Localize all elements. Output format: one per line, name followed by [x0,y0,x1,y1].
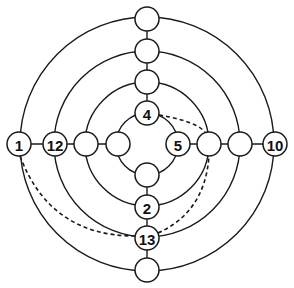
circular-puzzle-diagram: 1 12 5 10 [0,0,294,288]
node-empty-top-ring2[interactable] [135,70,159,94]
dashed-link-1-to-13 [20,156,135,236]
node-empty-top-ring3[interactable] [135,39,159,63]
node-empty-right-ring3[interactable] [228,132,252,156]
svg-text:1: 1 [15,137,23,154]
node-empty-bottom-outer[interactable] [135,258,159,282]
node-empty-right-ring2[interactable] [197,132,221,156]
svg-text:13: 13 [139,231,156,248]
node-empty-left-inner[interactable] [106,132,130,156]
node-empty-top-outer[interactable] [135,7,159,31]
node-12[interactable]: 12 [43,132,67,156]
node-empty-left-ring2[interactable] [74,132,98,156]
svg-text:12: 12 [47,137,64,154]
svg-text:10: 10 [267,137,284,154]
node-5[interactable]: 5 [166,132,190,156]
svg-text:4: 4 [143,106,152,123]
svg-text:2: 2 [143,200,151,217]
diagram-canvas: 1 12 5 10 [0,0,294,288]
dashed-link-4-to-right-ring2 [159,115,206,134]
svg-text:5: 5 [174,137,182,154]
node-2[interactable]: 2 [135,195,159,219]
node-1[interactable]: 1 [7,132,31,156]
node-13[interactable]: 13 [135,226,159,250]
node-10[interactable]: 10 [263,132,287,156]
node-4[interactable]: 4 [135,101,159,125]
node-empty-bottom-inner[interactable] [135,163,159,187]
